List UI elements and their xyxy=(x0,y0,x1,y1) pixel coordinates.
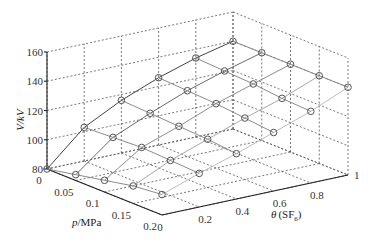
tick-label: 100 xyxy=(27,134,44,146)
tick-label: 0.1 xyxy=(86,197,100,209)
tick-label: 140 xyxy=(27,75,44,87)
tick-label: 0.2 xyxy=(143,220,157,232)
tick-label: 0 xyxy=(36,174,42,186)
z-axis-label: V/kV xyxy=(14,108,26,131)
tick-label: 0.4 xyxy=(236,205,250,217)
tick-label: 0.8 xyxy=(310,189,324,201)
tick-label: 160 xyxy=(27,46,44,58)
axes xyxy=(47,52,348,215)
tick-label: 0.15 xyxy=(112,209,132,221)
surface-mesh xyxy=(44,38,352,198)
tick-label: 0.2 xyxy=(198,213,212,225)
y-axis-label: θ(SF6) xyxy=(271,208,302,223)
surface-chart: 8010012014016000.050.10.150.200.20.40.60… xyxy=(0,0,377,248)
x-axis-label: p/MPa xyxy=(71,216,101,228)
tick-label: 0.05 xyxy=(54,186,74,198)
tick-label: 1 xyxy=(354,169,360,181)
tick-label: 0 xyxy=(157,221,163,233)
tick-label: 120 xyxy=(27,105,44,117)
